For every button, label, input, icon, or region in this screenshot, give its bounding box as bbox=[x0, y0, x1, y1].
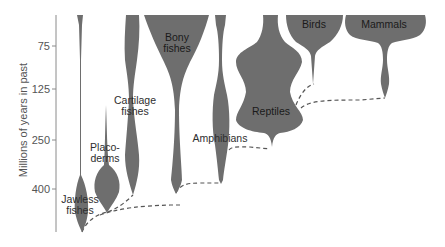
label-placoderms-line2: derms bbox=[90, 152, 119, 164]
y-axis-title: Millions of years in past bbox=[17, 63, 29, 177]
evolution-diagram: 75 125 250 400 Millions of years in past bbox=[0, 0, 445, 247]
label-reptiles: Reptiles bbox=[252, 105, 290, 117]
connector-to-bony bbox=[100, 205, 180, 215]
y-tick-label: 125 bbox=[32, 83, 50, 95]
label-jawless-line2: fishes bbox=[66, 204, 93, 216]
y-tick-label: 75 bbox=[38, 40, 50, 52]
spindle-amphibians bbox=[213, 15, 230, 184]
diagram-canvas: 75 125 250 400 Millions of years in past bbox=[0, 0, 445, 247]
y-tick-label: 400 bbox=[32, 183, 50, 195]
connector-amphibians-reptiles bbox=[229, 147, 270, 150]
label-bony-line2: fishes bbox=[163, 42, 190, 54]
label-amphibians: Amphibians bbox=[193, 132, 248, 144]
connector-reptiles-mammals bbox=[301, 98, 385, 108]
y-tick-label: 250 bbox=[32, 134, 50, 146]
label-mammals: Mammals bbox=[361, 18, 407, 30]
connector-reptiles-birds bbox=[296, 84, 314, 105]
label-birds: Birds bbox=[302, 18, 326, 30]
y-axis: 75 125 250 400 Millions of years in past bbox=[17, 15, 56, 232]
connector-bony-amphibians bbox=[176, 183, 220, 193]
label-cartilage-line2: fishes bbox=[121, 105, 148, 117]
